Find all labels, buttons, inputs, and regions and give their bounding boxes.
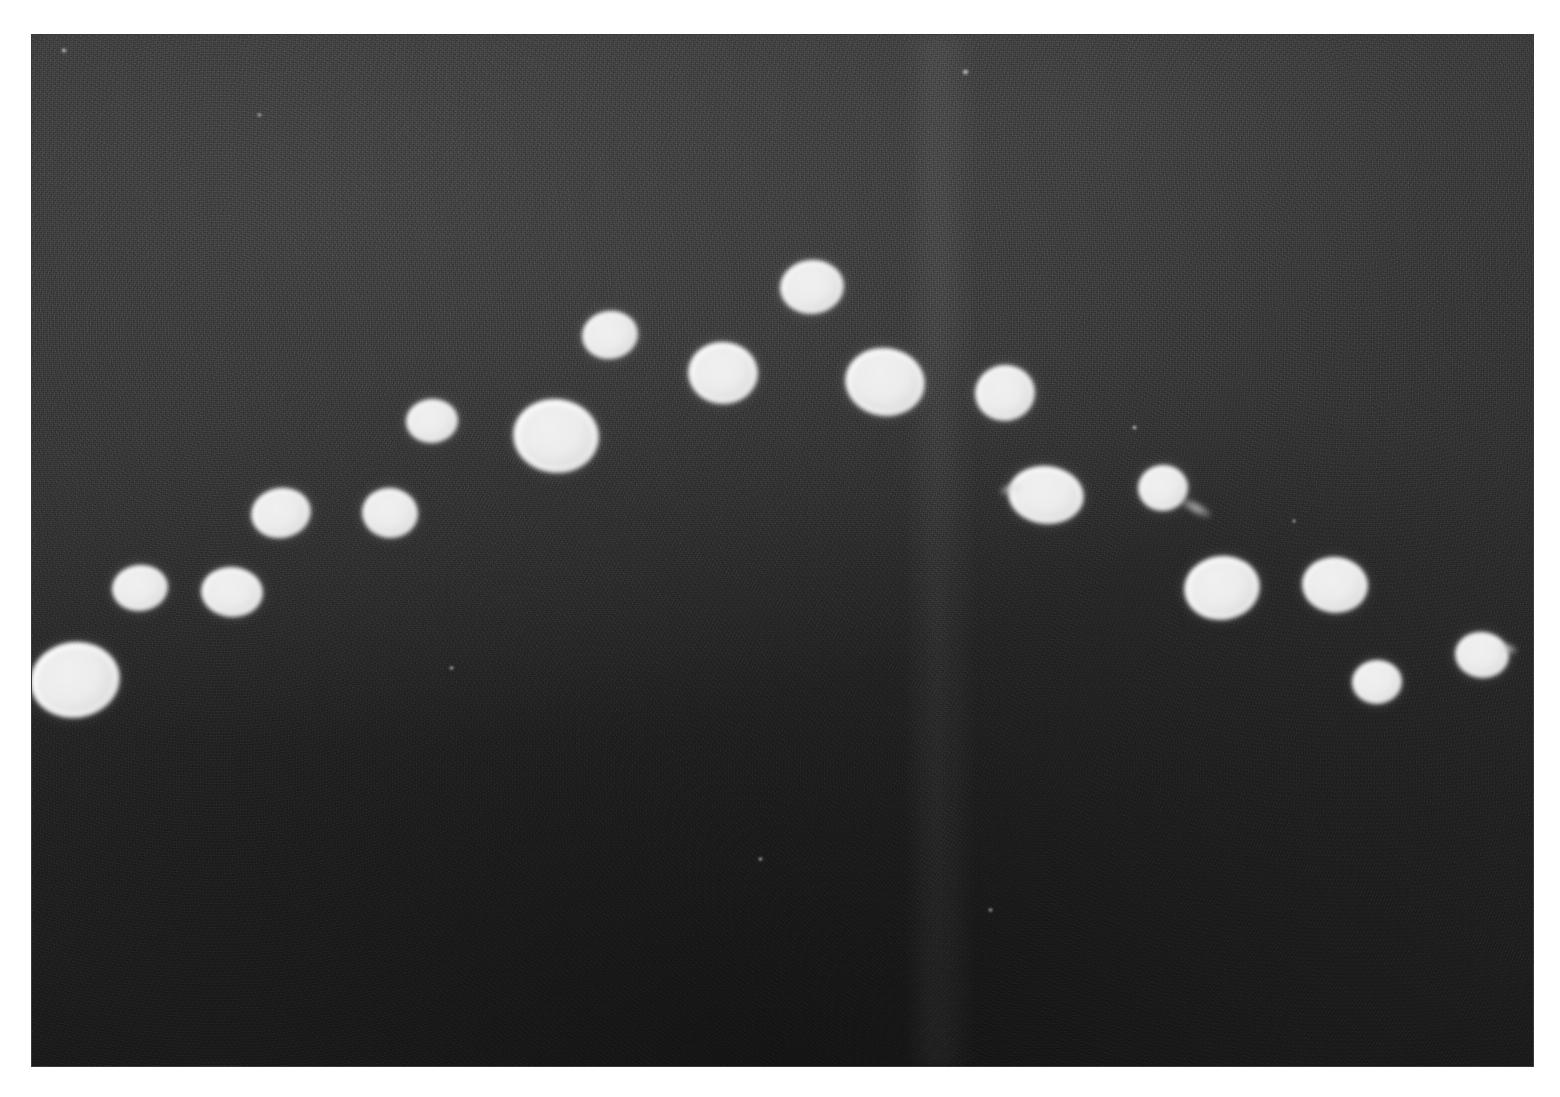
colony-texture: [253, 488, 310, 538]
colony-texture: [115, 566, 166, 609]
colony-texture: [33, 643, 117, 717]
colony-texture: [517, 401, 595, 470]
colony-texture: [1457, 633, 1507, 677]
colony-texture: [1012, 467, 1081, 522]
page-root: [0, 0, 1560, 1097]
colony-texture: [1141, 467, 1186, 508]
colony-texture: [205, 569, 260, 615]
colony-texture: [584, 312, 636, 359]
photographic-plate: [32, 35, 1533, 1066]
colony-texture: [1187, 557, 1257, 618]
dust-fleck: [61, 48, 67, 53]
colony-texture: [977, 367, 1032, 419]
dust-fleck: [449, 666, 454, 670]
dust-fleck: [758, 857, 763, 861]
dust-fleck: [962, 69, 969, 75]
colony-texture: [1305, 559, 1364, 611]
film-grain-layer-2: [32, 35, 1533, 1066]
colony-texture: [1355, 662, 1399, 701]
dust-fleck: [1132, 425, 1137, 430]
dust-fleck: [988, 908, 993, 912]
colony-texture: [783, 262, 841, 312]
colony-texture: [364, 490, 415, 537]
colony-texture: [848, 349, 923, 415]
colony-texture: [409, 401, 455, 441]
dust-fleck: [257, 113, 262, 117]
colony-texture: [692, 345, 753, 400]
dust-fleck: [1292, 519, 1296, 523]
